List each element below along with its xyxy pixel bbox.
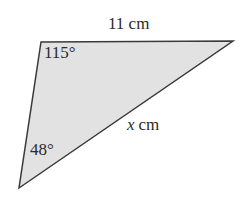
unknown-variable-symbol: x (127, 115, 135, 134)
unknown-side-unit: cm (139, 115, 160, 134)
top-side-length-label: 11 cm (108, 15, 149, 32)
triangle-polygon (19, 41, 233, 188)
angle-top-left-label: 115° (44, 44, 76, 61)
triangle-figure: 11 cm 115° 48° xcm (0, 0, 248, 202)
angle-bottom-left-label: 48° (30, 141, 54, 158)
unknown-side-length-label: xcm (127, 116, 159, 133)
